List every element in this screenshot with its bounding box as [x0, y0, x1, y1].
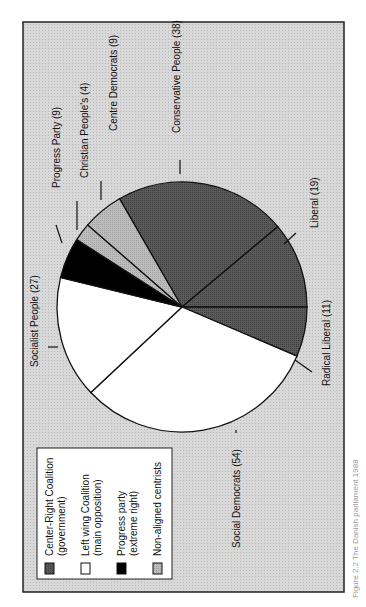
legend-swatch-progress [117, 563, 126, 574]
legend-swatch-non-aligned [153, 563, 162, 574]
slice-label: Progress Party (9) [51, 107, 62, 188]
legend-label: Left wing Coalition [80, 474, 91, 556]
slice-label: Liberal (19) [309, 177, 320, 228]
slice-label: Radical Liberal (11) [321, 300, 332, 386]
figure-caption: Figure 2.2 The Danish parliament 1988 [351, 459, 360, 598]
legend-label: Center-Right Coalition [44, 458, 55, 556]
legend-sublabel: (government) [56, 497, 67, 556]
slice-label: Centre Democrats (9) [108, 35, 119, 131]
pie [57, 182, 307, 432]
slice-label: Conservative People (38) [171, 20, 182, 133]
legend-swatch-left-wing [81, 563, 90, 574]
slice-label: Christian People's (4) [79, 83, 90, 178]
pie-chart-figure: Conservative People (38)Liberal (19)Radi… [0, 0, 366, 607]
slice-label: Socialist People (27) [29, 275, 40, 367]
legend: Center-Right Coalition(government)Left w… [37, 448, 172, 579]
slice-label: Social Democrats (54) [231, 449, 242, 548]
legend-swatch-center-right [45, 563, 54, 574]
legend-sublabel: (main opposition) [92, 479, 103, 556]
legend-sublabel: (extreme right) [128, 491, 139, 556]
legend-label: Progress party [116, 491, 127, 556]
legend-label: Non-aligned centrists [152, 462, 163, 556]
